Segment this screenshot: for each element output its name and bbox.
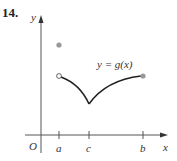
tick-label-a: a (56, 142, 62, 154)
y-axis-arrow-icon (39, 15, 44, 23)
x-axis-label: x (162, 141, 168, 153)
endpoint-filled-point (140, 73, 145, 78)
open-circle-point (57, 74, 62, 79)
function-label: y = g(x) (96, 58, 133, 71)
isolated-filled-point (56, 42, 61, 47)
tick-label-c: c (86, 142, 91, 154)
y-axis-label: y (30, 11, 36, 23)
problem-number: 14. (2, 5, 18, 21)
x-axis-arrow-icon (160, 133, 168, 138)
origin-label: O (29, 140, 37, 152)
graph-figure: 14. y x O a c b y = g(x) (0, 0, 177, 161)
curve-right-branch (89, 76, 141, 104)
curve-left-branch (61, 77, 89, 104)
tick-label-b: b (140, 142, 146, 154)
graph-svg: y x O a c b y = g(x) (0, 0, 177, 161)
